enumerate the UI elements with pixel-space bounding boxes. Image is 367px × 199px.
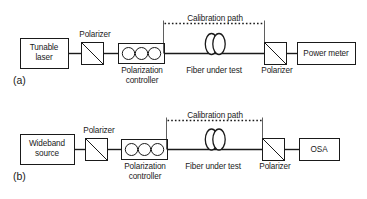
panel-b-controller-loop-1 bbox=[125, 144, 137, 156]
schematic-vector-layer bbox=[0, 0, 367, 199]
panel-b-controller-label: Polarization controller bbox=[124, 162, 166, 181]
panel-a-controller-label-line2: controller bbox=[121, 76, 163, 86]
panel-b-controller-loop-3 bbox=[151, 144, 163, 156]
panel-b-input-polarizer-label: Polarizer bbox=[83, 126, 114, 135]
panel-b-controller-label-line2: controller bbox=[124, 172, 166, 182]
panel-b-source-label-line2: source bbox=[29, 149, 65, 159]
panel-a-controller-loop-1 bbox=[122, 48, 134, 60]
panel-a-controller-label-line1: Polarization bbox=[121, 66, 163, 76]
panel-a-source-label-line2: laser bbox=[30, 53, 59, 63]
figure-schematic-diagram: Tunable laser Polarizer Polarization con… bbox=[0, 0, 367, 199]
panel-b-controller-label-line1: Polarization bbox=[124, 162, 166, 172]
panel-a-caption: (a) bbox=[13, 74, 26, 86]
panel-a-detector-label: Power meter bbox=[303, 49, 348, 58]
panel-b-caption: (b) bbox=[13, 170, 26, 182]
panel-a-controller-loop-2 bbox=[135, 48, 147, 60]
panel-b-graphics bbox=[21, 118, 340, 165]
panel-b-source-label-line1: Wideband bbox=[29, 139, 65, 149]
panel-a-output-polarizer-label: Polarizer bbox=[261, 66, 292, 75]
panel-a-controller-label: Polarization controller bbox=[121, 66, 163, 85]
panel-a-source-label: Tunable laser bbox=[30, 43, 59, 62]
panel-b-source-label: Wideband source bbox=[29, 139, 65, 158]
panel-a-source-label-line1: Tunable bbox=[30, 43, 59, 53]
panel-a-graphics bbox=[21, 21, 356, 69]
panel-b-calibration-path-label: Calibration path bbox=[187, 111, 243, 120]
panel-a-controller-loop-3 bbox=[148, 48, 160, 60]
panel-a-input-polarizer-label: Polarizer bbox=[79, 30, 110, 39]
panel-a-calibration-path-label: Calibration path bbox=[187, 14, 243, 23]
panel-a-fiber-coil-loop-right bbox=[213, 34, 225, 55]
panel-b-detector-label: OSA bbox=[311, 145, 328, 154]
panel-b-fiber-label: Fiber under test bbox=[185, 162, 241, 171]
panel-a-fiber-label: Fiber under test bbox=[186, 66, 242, 75]
panel-b-fiber-coil-loop-right bbox=[213, 129, 225, 150]
panel-b-controller-loop-2 bbox=[138, 144, 150, 156]
panel-b-output-polarizer-label: Polarizer bbox=[259, 162, 290, 171]
